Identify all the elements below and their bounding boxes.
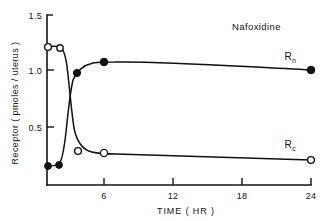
series-label-rc-base: R — [284, 139, 291, 150]
x-tick-label-6: 6 — [101, 191, 106, 201]
series-label-rn-base: R — [284, 51, 291, 62]
plot-title-annotation: Nafoxidine — [232, 21, 281, 32]
y-tick-label-0-5: 0.5 — [29, 123, 42, 133]
data-point-rc-3h — [75, 148, 82, 155]
x-ticks-group — [104, 178, 311, 185]
x-tick-label-24: 24 — [306, 191, 317, 201]
data-point-rc-24h — [308, 157, 315, 164]
x-tick-label-12: 12 — [168, 191, 179, 201]
y-tick-labels-group: 1.5 1.0 0.5 — [29, 11, 42, 133]
y-tick-label-1-0: 1.0 — [29, 66, 42, 76]
data-point-rn-3h — [73, 69, 80, 76]
x-axis-title: TIME ( HR ) — [157, 206, 215, 216]
y-tick-label-1-5: 1.5 — [29, 11, 42, 21]
series-label-rn: R n — [284, 51, 296, 64]
series-label-rc: R c — [284, 139, 296, 152]
data-point-rn-0h — [45, 163, 52, 170]
data-point-rn-1h — [56, 162, 63, 169]
series-label-rc-subscript: c — [292, 145, 296, 152]
figure-container: 1.5 1.0 0.5 6 12 18 24 TIME ( HR ) Recep… — [0, 0, 328, 221]
data-point-rc-1h — [57, 45, 63, 51]
data-point-rc-0h — [45, 44, 52, 51]
x-tick-labels-group: 6 12 18 24 — [101, 191, 316, 201]
series-rc-points — [45, 44, 315, 164]
y-ticks-group — [47, 70, 54, 127]
data-point-rn-6h — [100, 58, 108, 66]
x-tick-label-18: 18 — [237, 191, 248, 201]
y-axis-title: Receptor ( pmoles / uterus ) — [10, 42, 20, 165]
data-point-rn-24h — [307, 66, 315, 74]
receptor-time-course-chart: 1.5 1.0 0.5 6 12 18 24 TIME ( HR ) Recep… — [0, 0, 328, 221]
series-label-rn-subscript: n — [292, 57, 296, 64]
series-rn-points — [45, 58, 315, 169]
data-point-rc-6h — [100, 149, 107, 156]
